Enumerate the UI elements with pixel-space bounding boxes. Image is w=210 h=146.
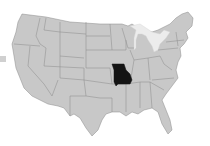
edge-mark (0, 56, 6, 62)
us-map (0, 0, 210, 146)
